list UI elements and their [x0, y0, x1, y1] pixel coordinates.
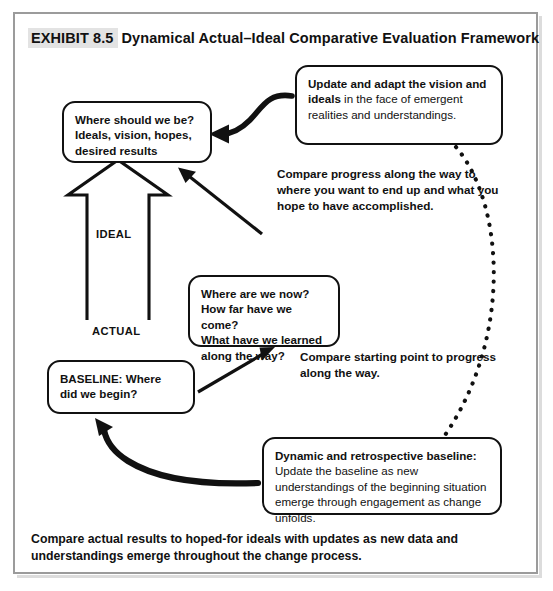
- node-ideal-line1: Where should we be?: [75, 112, 200, 127]
- block-arrow-label-ideal: IDEAL: [96, 228, 132, 240]
- node-ideal-vision: Where should we be? Ideals, vision, hope…: [62, 101, 212, 163]
- node-ideal-line3: desired results: [75, 143, 200, 158]
- curved-arrow-update-to-ideal: [209, 95, 292, 143]
- straight-arrow-progress-to-ideal: [178, 168, 262, 235]
- exhibit-caption: Compare actual results to hoped-for idea…: [31, 531, 481, 565]
- node-now-line2: How far have we come?: [201, 301, 328, 332]
- node-where-are-we-now: Where are we now? How far have we come? …: [188, 275, 340, 347]
- node-dynamic-rest: Update the baseline as new understanding…: [275, 464, 486, 523]
- annotation-compare-progress: Compare progress along the way to where …: [277, 166, 507, 214]
- block-arrow-ideal-actual: [68, 160, 168, 320]
- node-baseline-line1: BASELINE: Where: [60, 371, 183, 386]
- node-dynamic-retrospective-baseline: Dynamic and retrospective baseline: Upda…: [262, 437, 502, 515]
- node-baseline: BASELINE: Where did we begin?: [47, 360, 195, 414]
- node-update-vision-ideals: Update and adapt the vision and ideals i…: [295, 65, 503, 145]
- node-now-line3: What have we learned: [201, 332, 328, 347]
- annotation-compare-starting-point: Compare starting point to progress along…: [300, 349, 500, 381]
- block-arrow-label-actual: ACTUAL: [92, 325, 140, 337]
- node-baseline-line2: did we begin?: [60, 386, 183, 401]
- node-dynamic-bold: Dynamic and retrospective baseline:: [275, 449, 477, 462]
- node-now-line1: Where are we now?: [201, 286, 328, 301]
- curved-arrow-dynamic-to-baseline: [95, 418, 258, 483]
- exhibit-diagram: EXHIBIT 8.5Dynamical Actual–Ideal Compar…: [0, 0, 553, 591]
- node-ideal-line2: Ideals, vision, hopes,: [75, 127, 200, 142]
